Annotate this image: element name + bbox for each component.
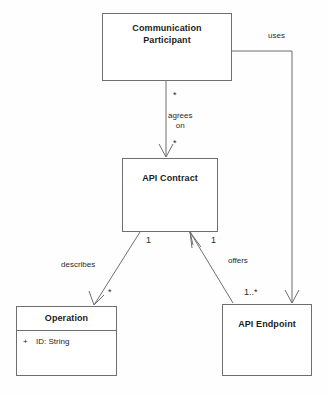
association-label-describes: describes [61,260,95,270]
class-attribute-row: + ID: String [17,336,116,347]
multiplicity-offers-target: 1 [211,236,216,245]
association-label-agrees-on: agreeson [168,111,192,131]
attribute-visibility-marker: + [23,336,36,347]
class-box-api-contract[interactable]: API Contract [122,158,218,232]
multiplicity-offers-source: 1..* [244,288,258,297]
class-attributes-compartment-operation: + ID: String [17,331,116,347]
class-name-communication-participant: CommunicationParticipant [103,14,231,46]
class-name-operation: Operation [17,307,116,325]
class-box-communication-participant[interactable]: CommunicationParticipant [102,13,232,81]
association-label-offers: offers [228,256,248,266]
association-label-uses: uses [268,31,285,41]
multiplicity-agrees-on-source: * [173,91,177,100]
class-name-api-endpoint: API Endpoint [223,305,311,331]
association-describes[interactable] [89,232,140,305]
multiplicity-describes-source: 1 [146,236,151,245]
multiplicity-agrees-on-target: * [173,139,177,148]
class-name-api-contract: API Contract [123,159,217,185]
class-box-operation[interactable]: Operation + ID: String [16,306,117,376]
multiplicity-describes-target: * [108,288,112,297]
class-title-compartment-operation: Operation [17,307,116,331]
class-box-api-endpoint[interactable]: API Endpoint [222,304,312,376]
uml-class-diagram: CommunicationParticipant API Contract Op… [0,0,328,395]
attribute-signature: ID: String [36,336,116,347]
